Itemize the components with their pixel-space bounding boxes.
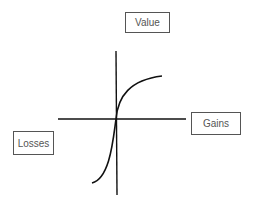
losses-label: Losses bbox=[13, 131, 54, 155]
gains-label: Gains bbox=[191, 112, 241, 135]
value-curve-gains bbox=[116, 76, 162, 119]
value-label: Value bbox=[125, 12, 170, 33]
value-curve-losses bbox=[92, 119, 116, 183]
